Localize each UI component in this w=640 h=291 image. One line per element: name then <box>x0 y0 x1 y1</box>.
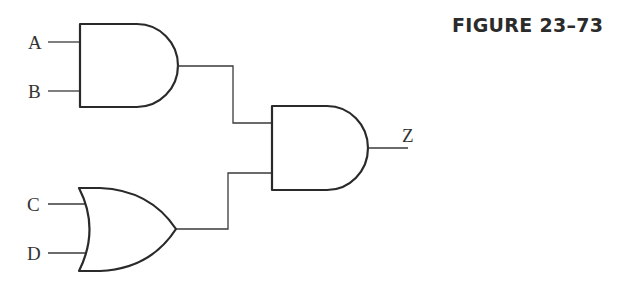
wire-and1-to-and2 <box>177 66 272 123</box>
and-gate-2 <box>272 106 368 190</box>
or-gate <box>79 188 176 271</box>
wire-or-to-and2 <box>176 173 272 229</box>
logic-circuit-diagram: A B C D Z <box>0 0 640 291</box>
and-gate-1 <box>80 24 178 107</box>
input-label-d: D <box>27 243 41 264</box>
input-label-c: C <box>27 194 40 215</box>
output-label-z: Z <box>402 125 414 146</box>
input-label-a: A <box>28 32 42 53</box>
input-label-b: B <box>28 81 41 102</box>
